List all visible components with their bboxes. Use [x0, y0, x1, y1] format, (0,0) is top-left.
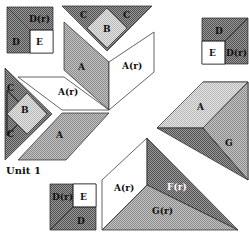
unit-title: Unit 1: [6, 165, 41, 176]
piece-ar-upper: [109, 32, 154, 110]
label-e-top-right: E: [209, 48, 216, 58]
label-fr: F(r): [167, 182, 187, 192]
label-e-top-left: E: [36, 37, 43, 47]
label-a-right: A: [196, 102, 205, 112]
label-b-left: B: [21, 105, 29, 115]
label-gr: G(r): [152, 206, 173, 216]
label-ar-upper: A(r): [121, 61, 142, 71]
label-dr-top-right: D(r): [226, 48, 247, 58]
bottom-left-square: [50, 184, 96, 230]
label-c-left-bottom: C: [7, 129, 14, 139]
label-dr-bottom-left: D(r): [52, 192, 73, 202]
label-d-top-right: D: [215, 26, 223, 36]
label-c-top-left: C: [80, 10, 87, 20]
label-f: F: [196, 153, 203, 163]
label-ar-bottom: A(r): [113, 183, 134, 193]
label-d-top-left: D: [12, 37, 20, 47]
label-c-left-top: C: [7, 83, 14, 93]
label-d-bottom-left: D: [77, 216, 85, 226]
label-d-r-top-left: D(r): [29, 14, 50, 24]
label-e-bottom-left: E: [80, 192, 87, 202]
label-ar-left: A(r): [57, 87, 78, 97]
quilt-diagram: D(r) D E C B C A A(r) A(r) A C B C D E D…: [0, 0, 249, 235]
label-c-top-right: C: [123, 10, 130, 20]
label-a-lower: A: [55, 130, 64, 140]
label-g: G: [225, 138, 233, 148]
label-b-top: B: [103, 24, 111, 34]
label-a-upper: A: [77, 62, 86, 72]
